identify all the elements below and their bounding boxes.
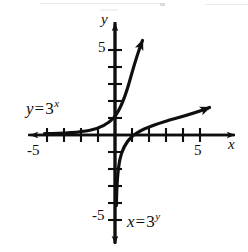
y-tick-label-positive-5: 5: [98, 40, 106, 55]
x-tick-label-negative-5: -5: [27, 143, 40, 158]
equation-label-exponential: y=3x: [26, 100, 59, 117]
equation-lhs: x: [127, 212, 135, 231]
x-tick-label-positive-5: 5: [194, 143, 202, 158]
x-axis-label: x: [228, 137, 235, 152]
equation-base: 3: [45, 99, 54, 118]
equation-operator: =: [34, 99, 46, 118]
y-tick-label-negative-5: -5: [92, 208, 105, 223]
figure-root: y=3x x=3y y x -5 5 5 -5: [0, 0, 248, 252]
equation-exponent: y: [155, 210, 160, 222]
equation-operator: =: [135, 212, 147, 231]
equation-exponent: x: [54, 97, 59, 109]
y-axis-label: y: [101, 12, 108, 27]
y-axis: [108, 22, 122, 244]
equation-label-logarithmic: x=3y: [127, 213, 160, 230]
curve-exponential: [45, 41, 143, 134]
equation-lhs: y: [26, 99, 34, 118]
coordinate-plane: [0, 0, 248, 252]
equation-base: 3: [146, 212, 155, 231]
